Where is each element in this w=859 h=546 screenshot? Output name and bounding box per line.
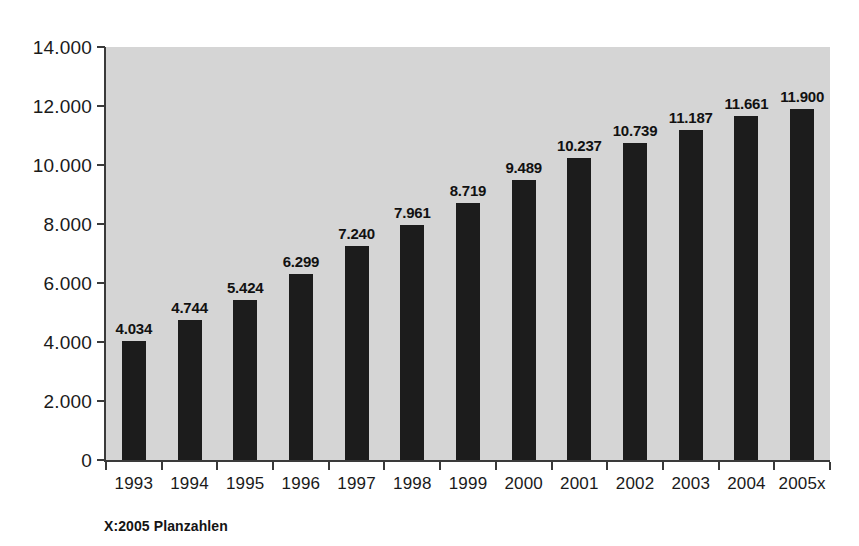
x-axis-tick-label: 1995 bbox=[226, 474, 265, 494]
bar-value-label: 5.424 bbox=[227, 279, 264, 296]
y-axis-tick-mark bbox=[97, 459, 105, 461]
bar-value-label: 10.739 bbox=[613, 122, 658, 139]
bar bbox=[233, 300, 257, 460]
x-axis-tick-label: 1997 bbox=[337, 474, 376, 494]
bar bbox=[345, 246, 369, 460]
y-axis-tick-mark bbox=[97, 400, 105, 402]
bar-value-label: 4.034 bbox=[116, 320, 153, 337]
y-axis-tick-mark bbox=[97, 223, 105, 225]
x-axis-tick-mark bbox=[551, 462, 553, 470]
x-axis-tick-mark bbox=[495, 462, 497, 470]
bars-layer: 4.0344.7445.4246.2997.2407.9618.7199.489… bbox=[0, 0, 859, 546]
bar-value-label: 6.299 bbox=[283, 253, 320, 270]
bar-chart: 02.0004.0006.0008.00010.00012.00014.000 … bbox=[0, 0, 859, 546]
bar bbox=[679, 130, 703, 460]
bar bbox=[456, 203, 480, 460]
x-axis-tick-mark bbox=[161, 462, 163, 470]
y-axis-tick-mark bbox=[97, 282, 105, 284]
bar-value-label: 11.661 bbox=[725, 95, 769, 112]
bar-value-label: 10.237 bbox=[557, 137, 602, 154]
bar bbox=[178, 320, 202, 460]
x-axis-tick-mark bbox=[718, 462, 720, 470]
bar-value-label: 7.961 bbox=[394, 204, 431, 221]
x-axis-tick-label: 2003 bbox=[671, 474, 710, 494]
x-axis-tick-label: 2001 bbox=[560, 474, 599, 494]
x-axis-tick-mark bbox=[216, 462, 218, 470]
y-axis-tick-mark bbox=[97, 105, 105, 107]
x-axis-tick-label: 2005x bbox=[778, 474, 825, 494]
x-axis-tick-mark bbox=[105, 462, 107, 470]
x-axis-tick-mark bbox=[773, 462, 775, 470]
bar bbox=[734, 116, 758, 460]
x-axis-tick-mark bbox=[606, 462, 608, 470]
x-axis-tick-mark bbox=[662, 462, 664, 470]
chart-footnote: X:2005 Planzahlen bbox=[104, 518, 228, 534]
x-axis-tick-label: 1993 bbox=[115, 474, 154, 494]
y-axis-tick-mark bbox=[97, 164, 105, 166]
bar bbox=[289, 274, 313, 460]
bar-value-label: 11.187 bbox=[669, 109, 713, 126]
x-axis-tick-label: 1998 bbox=[393, 474, 432, 494]
bar-value-label: 9.489 bbox=[505, 159, 542, 176]
bar-value-label: 8.719 bbox=[450, 182, 487, 199]
x-axis-tick-mark bbox=[439, 462, 441, 470]
x-axis-tick-label: 1999 bbox=[449, 474, 488, 494]
bar bbox=[567, 158, 591, 460]
bar-value-label: 11.900 bbox=[780, 88, 824, 105]
bar-value-label: 7.240 bbox=[338, 225, 375, 242]
bar bbox=[623, 143, 647, 460]
bar-value-label: 4.744 bbox=[171, 299, 208, 316]
y-axis-tick-mark bbox=[97, 46, 105, 48]
x-axis-tick-mark bbox=[272, 462, 274, 470]
x-axis-tick-mark bbox=[383, 462, 385, 470]
x-axis-tick-mark bbox=[328, 462, 330, 470]
x-axis-tick-label: 2000 bbox=[504, 474, 543, 494]
x-axis-tick-label: 2004 bbox=[727, 474, 766, 494]
x-axis-tick-label: 1994 bbox=[170, 474, 209, 494]
x-axis-tick-label: 2002 bbox=[616, 474, 655, 494]
bar bbox=[512, 180, 536, 460]
bar bbox=[122, 341, 146, 460]
y-axis-tick-mark bbox=[97, 341, 105, 343]
x-axis-tick-label: 1996 bbox=[282, 474, 321, 494]
x-axis-tick-mark bbox=[829, 462, 831, 470]
bar bbox=[790, 109, 814, 460]
bar bbox=[400, 225, 424, 460]
